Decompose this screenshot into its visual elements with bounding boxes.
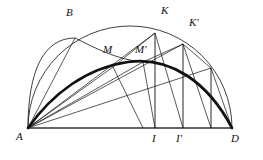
point-label-I-prime: I' (176, 133, 182, 144)
figure-canvas (0, 0, 263, 160)
point-label-A: A (16, 131, 23, 142)
chord-M-base (113, 67, 143, 128)
point-label-I: I (152, 133, 156, 144)
point-label-D: D (231, 133, 239, 144)
chord-K-Iprime (155, 33, 183, 128)
point-label-M: M (103, 44, 112, 55)
chord-Kprime-base (183, 44, 211, 128)
point-label-K: K (161, 5, 168, 16)
point-label-M-prime: M' (135, 44, 147, 55)
chord-Mprime-I (143, 62, 155, 128)
ray-A-Kprime (28, 44, 183, 128)
geometry-figure: A B M M' K K' I I' D (0, 0, 263, 160)
point-label-K-prime: K' (189, 17, 199, 28)
point-label-B: B (66, 7, 73, 18)
chord-T-D (211, 68, 232, 128)
